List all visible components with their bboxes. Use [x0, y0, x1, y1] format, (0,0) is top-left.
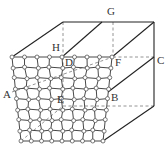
- mesh-node: [97, 77, 101, 81]
- mesh-node: [70, 107, 74, 111]
- mesh-node: [72, 98, 76, 102]
- mesh-node: [28, 128, 32, 132]
- mesh-node: [71, 86, 75, 90]
- mesh-node: [19, 139, 23, 143]
- mesh-node: [61, 108, 65, 112]
- label-a: A: [3, 88, 11, 100]
- mesh-node: [110, 55, 114, 59]
- mesh-node: [60, 139, 64, 143]
- mesh-node: [103, 118, 107, 122]
- mesh-node: [59, 118, 63, 122]
- mesh-node: [93, 119, 97, 123]
- mesh-node: [82, 97, 86, 101]
- mesh-node: [49, 98, 53, 102]
- mesh-node: [48, 86, 52, 90]
- label-d: D: [65, 56, 73, 68]
- mesh-node: [18, 129, 22, 133]
- mesh-node: [61, 87, 65, 91]
- mesh-node: [82, 129, 86, 133]
- mesh-node: [25, 77, 29, 81]
- mesh-node: [59, 76, 63, 80]
- mesh-node: [92, 107, 96, 111]
- mesh-node: [106, 97, 110, 101]
- mesh-node: [23, 65, 27, 69]
- mesh-node: [47, 65, 51, 69]
- mesh-node: [36, 97, 40, 101]
- geometry-diagram: G H D F C A E B: [0, 0, 165, 150]
- mesh-node: [28, 119, 32, 123]
- mesh-node: [16, 108, 20, 112]
- mesh-node: [40, 139, 44, 143]
- mesh-node: [72, 119, 76, 123]
- mesh-node: [60, 55, 64, 59]
- mesh-node: [26, 107, 30, 111]
- mesh-node: [11, 66, 15, 70]
- mesh-node: [12, 76, 16, 80]
- mesh-node: [10, 55, 14, 59]
- mesh-node: [49, 77, 53, 81]
- mesh-node: [39, 108, 43, 112]
- mesh-node: [91, 139, 95, 143]
- mesh-node: [50, 119, 54, 123]
- mesh-node: [29, 139, 33, 143]
- mesh-node: [95, 98, 99, 102]
- mesh-node: [85, 55, 89, 59]
- label-g: G: [107, 5, 115, 17]
- top-middle-diagonal: [62, 22, 102, 57]
- mesh-node: [84, 87, 88, 91]
- mesh-node: [94, 86, 98, 90]
- mesh-node: [50, 139, 54, 143]
- mesh-node: [13, 87, 17, 91]
- mesh-node: [109, 66, 113, 70]
- mesh-node: [40, 129, 44, 133]
- mesh-node: [83, 108, 87, 112]
- mesh-node: [27, 98, 31, 102]
- mesh-node: [81, 139, 85, 143]
- mesh-node: [85, 66, 89, 70]
- mesh-node: [83, 76, 87, 80]
- label-h: H: [52, 41, 60, 53]
- label-c: C: [157, 54, 164, 66]
- mesh-node: [102, 129, 106, 133]
- mesh-node: [36, 66, 40, 70]
- label-b: B: [111, 91, 118, 103]
- mesh-node: [35, 55, 39, 59]
- mesh-node: [37, 87, 41, 91]
- label-e: E: [57, 93, 64, 105]
- mesh-node: [108, 76, 112, 80]
- bottom-right-diagonal: [103, 106, 154, 141]
- mesh-node: [73, 77, 77, 81]
- mesh-node: [24, 86, 28, 90]
- mesh-node: [48, 107, 52, 111]
- mesh-node: [73, 55, 77, 59]
- mesh-node: [15, 97, 19, 101]
- mesh-node: [91, 128, 95, 132]
- mesh-node: [38, 118, 42, 122]
- mesh-node: [61, 129, 65, 133]
- mesh-node: [96, 65, 100, 69]
- mesh-node: [70, 139, 74, 143]
- top-right-diagonal: [112, 22, 154, 57]
- mesh-node: [104, 108, 108, 112]
- label-f: F: [115, 56, 121, 68]
- mesh-node: [17, 118, 21, 122]
- mesh-node: [70, 128, 74, 132]
- mesh-node: [48, 55, 52, 59]
- mesh-node: [81, 118, 85, 122]
- mesh-node: [49, 128, 53, 132]
- mesh-node: [98, 55, 102, 59]
- mesh-node: [35, 76, 39, 80]
- mesh-node: [23, 55, 27, 59]
- mesh-node: [101, 139, 105, 143]
